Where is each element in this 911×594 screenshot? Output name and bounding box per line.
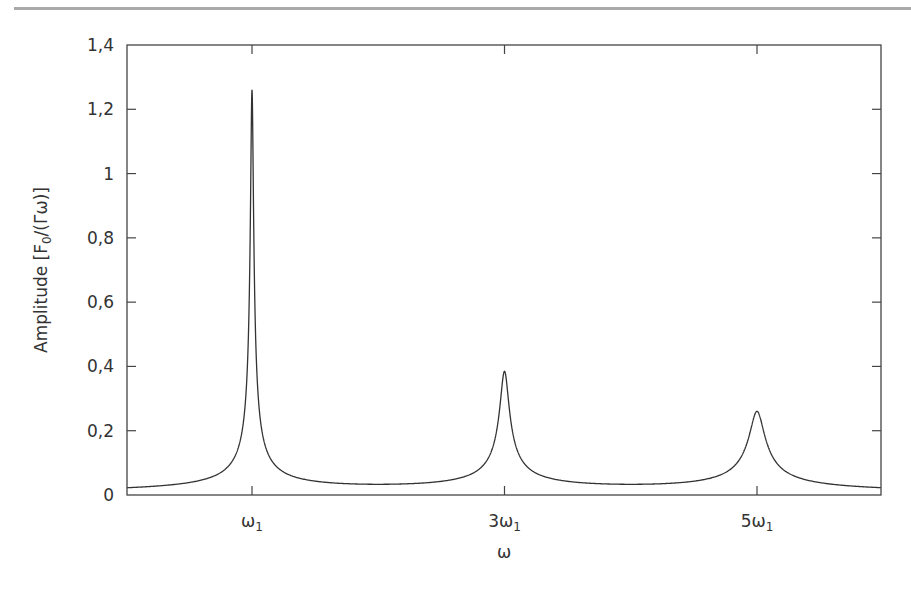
y-axis-ticks: 00,20,40,60,811,21,4 [87,35,881,505]
y-axis-title-main: Amplitude [F [31,244,51,353]
y-tick-label: 0,6 [87,292,114,312]
y-axis-title: Amplitude [F0/(Γω)] [31,187,54,353]
plot-frame [127,45,881,495]
y-axis-title-tail: /(Γω)] [31,187,51,236]
y-tick-label: 0 [103,485,114,505]
y-tick-label: 1,2 [87,99,114,119]
y-tick-label: 1 [103,164,114,184]
y-tick-label: 0,8 [87,228,114,248]
y-tick-label: 0,2 [87,421,114,441]
curve-layer [127,90,881,488]
x-axis-ticks: ω13ω15ω1 [241,45,773,534]
y-tick-label: 0,4 [87,356,114,376]
amplitude-chart: 00,20,40,60,811,21,4 ω13ω15ω1 ω Amplitud… [0,0,911,594]
x-axis-title: ω [497,542,511,562]
x-tick-label: 5ω1 [741,511,774,534]
y-tick-label: 1,4 [87,35,114,55]
amplitude-curve [127,90,881,488]
y-axis-title-sub: 0 [40,236,54,244]
x-tick-label: ω1 [241,511,263,534]
x-tick-label: 3ω1 [488,511,521,534]
